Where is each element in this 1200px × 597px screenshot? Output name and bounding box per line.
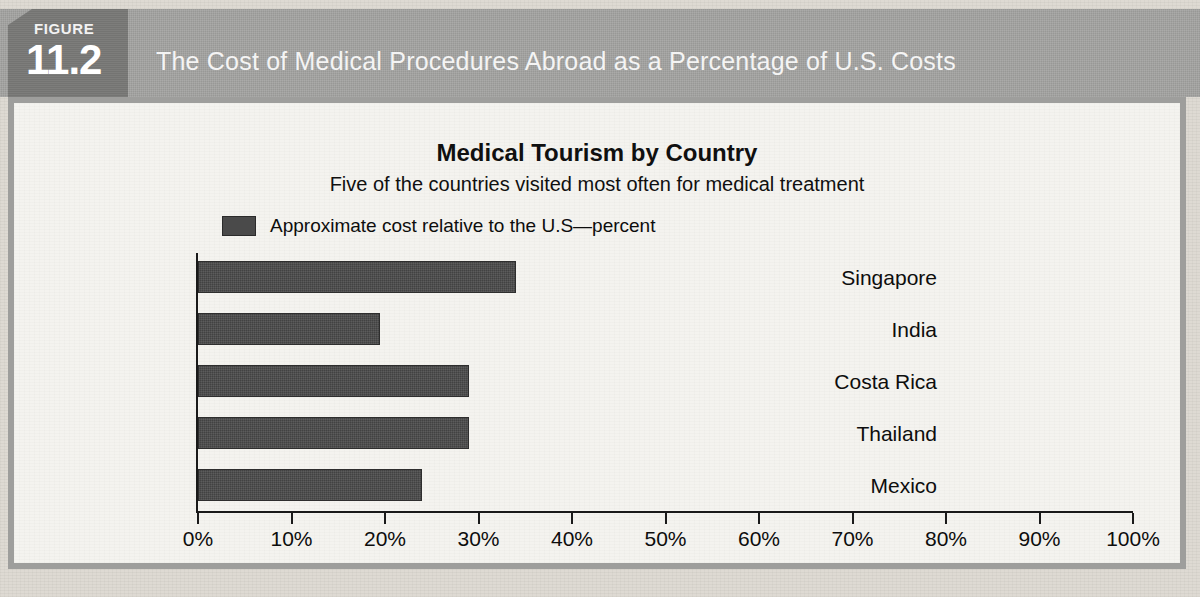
x-tick-label: 10% [270, 527, 312, 551]
bar-costa-rica [198, 365, 469, 397]
x-tick-mark [758, 513, 760, 524]
figure-title: The Cost of Medical Procedures Abroad as… [156, 47, 956, 76]
legend-label: Approximate cost relative to the U.S—per… [270, 215, 655, 237]
chart-title: Medical Tourism by Country [14, 139, 1180, 167]
x-tick-label: 90% [1018, 527, 1060, 551]
x-tick-label: 80% [925, 527, 967, 551]
category-label-singapore: Singapore [841, 266, 937, 290]
x-tick-mark [571, 513, 573, 524]
category-label-thailand: Thailand [856, 422, 937, 446]
figure-number-badge: FIGURE 11.2 [8, 9, 128, 97]
bar-row [198, 261, 516, 293]
x-tick-mark [291, 513, 293, 524]
bar-row [198, 313, 380, 345]
chart-frame: Medical Tourism by Country Five of the c… [8, 97, 1186, 569]
page-bottom-strip [0, 572, 1200, 597]
x-tick-mark [384, 513, 386, 524]
x-tick-mark [1132, 513, 1134, 524]
x-tick-label: 60% [738, 527, 780, 551]
x-tick-label: 20% [364, 527, 406, 551]
bar-row [198, 417, 469, 449]
chart-panel: Medical Tourism by Country Five of the c… [14, 103, 1180, 563]
x-tick-mark [478, 513, 480, 524]
bar-india [198, 313, 380, 345]
plot-area: SingaporeIndiaCosta RicaThailandMexico 0… [196, 253, 1131, 511]
x-tick-label: 50% [644, 527, 686, 551]
x-tick-label: 40% [551, 527, 593, 551]
bar-mexico [198, 469, 422, 501]
bar-row [198, 365, 469, 397]
chart-legend: Approximate cost relative to the U.S—per… [222, 215, 655, 237]
figure-page: The Cost of Medical Procedures Abroad as… [0, 0, 1200, 597]
figure-banner: The Cost of Medical Procedures Abroad as… [0, 9, 1200, 97]
x-tick-label: 0% [183, 527, 213, 551]
chart-subtitle: Five of the countries visited most often… [14, 173, 1180, 196]
x-tick-mark [945, 513, 947, 524]
category-label-mexico: Mexico [870, 474, 937, 498]
figure-badge-number: 11.2 [26, 39, 101, 81]
x-tick-mark [197, 513, 199, 524]
x-tick-mark [1039, 513, 1041, 524]
category-label-india: India [891, 318, 937, 342]
bar-row [198, 469, 422, 501]
x-tick-mark [852, 513, 854, 524]
category-label-costa-rica: Costa Rica [834, 370, 937, 394]
x-tick-label: 70% [831, 527, 873, 551]
x-tick-label: 30% [457, 527, 499, 551]
x-tick-mark [665, 513, 667, 524]
x-tick-label: 100% [1106, 527, 1160, 551]
bar-singapore [198, 261, 516, 293]
legend-swatch-icon [222, 216, 256, 236]
bar-thailand [198, 417, 469, 449]
figure-badge-word: FIGURE [34, 21, 94, 36]
